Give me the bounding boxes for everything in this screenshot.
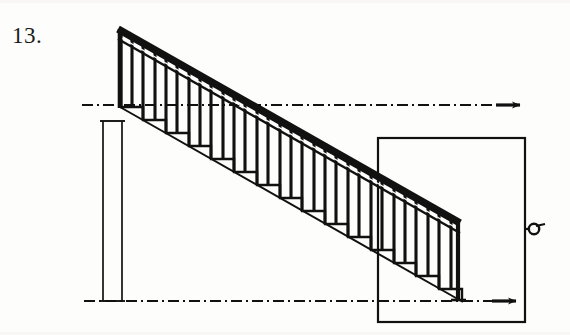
section-marker (525, 224, 545, 234)
staircase-assembly (118, 29, 466, 302)
figure-page: 13. (0, 0, 570, 335)
staircase-elevation-drawing (0, 0, 570, 335)
height-dimension (100, 121, 125, 301)
